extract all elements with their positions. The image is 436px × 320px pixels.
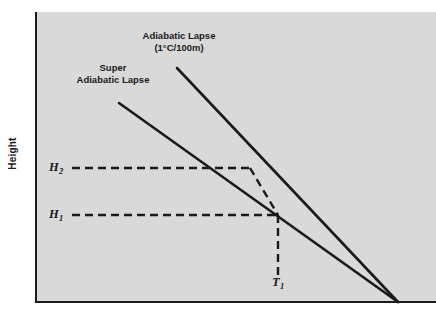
super-adiabatic-line2: Adiabatic Lapse bbox=[77, 74, 150, 85]
adiabatic-lapse-line2: (1°C/100m) bbox=[154, 42, 203, 53]
series-line-0 bbox=[177, 68, 398, 302]
y-tick-h2-subscript: 2 bbox=[59, 166, 63, 176]
adiabatic-lapse-line1: Adiabatic Lapse bbox=[143, 30, 216, 41]
y-tick-h1-subscript: 1 bbox=[59, 213, 63, 223]
lapse-rate-diagram: Height Adiabatic Lapse (1°C/100m) Super … bbox=[0, 0, 436, 320]
y-tick-h1-symbol: H bbox=[49, 207, 59, 221]
series-group bbox=[72, 68, 398, 302]
y-axis-title: Height bbox=[7, 124, 18, 184]
x-tick-label-t1: T1 bbox=[272, 275, 284, 290]
x-tick-t1-symbol: T bbox=[272, 275, 280, 289]
adiabatic-lapse-annotation: Adiabatic Lapse (1°C/100m) bbox=[120, 30, 238, 53]
y-tick-label-h1: H1 bbox=[49, 207, 63, 222]
super-adiabatic-lapse-annotation: Super Adiabatic Lapse bbox=[58, 62, 168, 85]
series-line-1 bbox=[119, 103, 398, 302]
y-tick-label-h2: H2 bbox=[49, 160, 63, 175]
x-tick-t1-subscript: 1 bbox=[280, 281, 284, 291]
y-tick-h2-symbol: H bbox=[49, 160, 59, 174]
super-adiabatic-line1: Super bbox=[100, 62, 127, 73]
